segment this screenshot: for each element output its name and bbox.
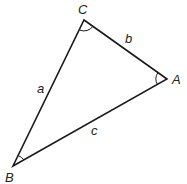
- vertex-label-a: A: [171, 72, 181, 87]
- side-label-c: c: [91, 123, 98, 138]
- angle-arc-a: [156, 73, 158, 85]
- side-label-a: a: [37, 81, 44, 96]
- vertex-label-c: C: [78, 2, 88, 17]
- vertex-label-b: B: [5, 170, 14, 184]
- triangle-diagram: C A B b a c: [0, 0, 187, 184]
- side-label-b: b: [125, 31, 132, 46]
- angle-arc-b: [18, 156, 24, 161]
- angle-arc-c: [80, 26, 93, 31]
